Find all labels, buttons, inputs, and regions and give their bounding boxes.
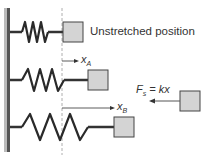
force-arrow-head (149, 99, 155, 104)
x-a-label: xA (81, 53, 91, 67)
spring-stretched-b (10, 114, 114, 140)
arrow-head-a (74, 59, 79, 63)
block-unstretched (63, 22, 83, 42)
spring-unstretched (10, 22, 63, 42)
wall (7, 8, 10, 152)
block-position-b (114, 117, 134, 137)
spring-force-equation: Fs = kx (136, 83, 170, 97)
free-body-block (180, 91, 200, 111)
wall-shade (4, 8, 7, 152)
unstretched-position-label: Unstretched position (90, 25, 195, 37)
spring-diagram (0, 0, 204, 160)
x-b-label: xB (117, 100, 127, 114)
arrow-head-b (110, 106, 115, 110)
spring-stretched-a (10, 69, 88, 91)
block-position-a (88, 70, 108, 90)
